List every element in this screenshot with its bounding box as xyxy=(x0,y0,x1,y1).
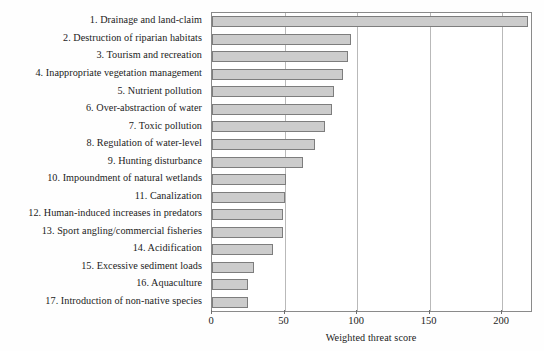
bar-row xyxy=(212,83,531,101)
category-label-row: 17. Introduction of non-native species xyxy=(0,293,207,311)
bar xyxy=(212,209,283,220)
category-label-row: 12. Human-induced increases in predators xyxy=(0,205,207,223)
bar-row xyxy=(212,66,531,84)
x-tick-label: 50 xyxy=(278,315,289,326)
category-label: 9. Hunting disturbance xyxy=(108,156,202,167)
category-label: 6. Over-abstraction of water xyxy=(86,103,202,114)
bar-row xyxy=(212,101,531,119)
category-label: 11. Canalization xyxy=(135,191,202,202)
category-label-row: 16. Aquaculture xyxy=(0,275,207,293)
bar-chart-figure: 1. Drainage and land-claim2. Destruction… xyxy=(0,0,544,351)
category-label-row: 2. Destruction of riparian habitats xyxy=(0,30,207,48)
category-label-row: 8. Regulation of water-level xyxy=(0,135,207,153)
category-label-row: 4. Inappropriate vegetation management xyxy=(0,65,207,83)
category-label-row: 3. Tourism and recreation xyxy=(0,47,207,65)
x-tick-mark xyxy=(356,310,357,314)
bar-row xyxy=(212,153,531,171)
category-label: 4. Inappropriate vegetation management xyxy=(35,68,202,79)
category-label: 13. Sport angling/commercial fisheries xyxy=(42,226,202,237)
x-tick-label: 100 xyxy=(348,315,364,326)
bar-row xyxy=(212,118,531,136)
x-tick-label: 150 xyxy=(421,315,437,326)
x-axis: Weighted threat score 050100150200 xyxy=(211,310,531,351)
category-label-row: 14. Acidification xyxy=(0,240,207,258)
bar xyxy=(212,227,283,238)
bar-series xyxy=(212,13,531,311)
x-tick-label: 0 xyxy=(208,315,213,326)
category-label: 14. Acidification xyxy=(133,243,202,254)
bar xyxy=(212,157,303,168)
category-label: 10. Impoundment of natural wetlands xyxy=(47,173,202,184)
bar-row xyxy=(212,241,531,259)
category-label-row: 13. Sport angling/commercial fisheries xyxy=(0,222,207,240)
x-tick-mark xyxy=(501,310,502,314)
plot-area xyxy=(211,12,532,312)
bar-row xyxy=(212,13,531,31)
bar-row xyxy=(212,188,531,206)
category-label: 16. Aquaculture xyxy=(136,278,202,289)
category-label: 15. Excessive sediment loads xyxy=(81,261,202,272)
category-label: 7. Toxic pollution xyxy=(129,121,202,132)
bar xyxy=(212,86,334,97)
category-label-row: 9. Hunting disturbance xyxy=(0,152,207,170)
bar xyxy=(212,244,273,255)
bar-row xyxy=(212,223,531,241)
x-axis-title: Weighted threat score xyxy=(211,332,531,343)
bar-row xyxy=(212,136,531,154)
category-label-row: 11. Canalization xyxy=(0,187,207,205)
category-label: 2. Destruction of riparian habitats xyxy=(63,33,202,44)
bar xyxy=(212,69,343,80)
bar xyxy=(212,34,351,45)
category-label-row: 5. Nutrient pollution xyxy=(0,82,207,100)
category-label-row: 10. Impoundment of natural wetlands xyxy=(0,170,207,188)
bar xyxy=(212,51,348,62)
bar xyxy=(212,279,248,290)
category-label: 12. Human-induced increases in predators xyxy=(28,208,202,219)
category-label-row: 1. Drainage and land-claim xyxy=(0,12,207,30)
bar-row xyxy=(212,294,531,312)
bar xyxy=(212,121,325,132)
bar-row xyxy=(212,276,531,294)
bar-row xyxy=(212,48,531,66)
x-tick-label: 200 xyxy=(493,315,509,326)
category-label: 5. Nutrient pollution xyxy=(117,86,202,97)
bar-row xyxy=(212,258,531,276)
bar xyxy=(212,297,248,308)
bar-row xyxy=(212,31,531,49)
category-label: 1. Drainage and land-claim xyxy=(90,15,202,26)
category-label: 8. Regulation of water-level xyxy=(87,138,202,149)
bar xyxy=(212,16,528,27)
category-label-row: 6. Over-abstraction of water xyxy=(0,100,207,118)
bar xyxy=(212,174,286,185)
category-label-row: 15. Excessive sediment loads xyxy=(0,257,207,275)
category-label: 17. Introduction of non-native species xyxy=(45,296,202,307)
category-label-row: 7. Toxic pollution xyxy=(0,117,207,135)
category-label-column: 1. Drainage and land-claim2. Destruction… xyxy=(0,12,207,310)
bar-row xyxy=(212,206,531,224)
bar xyxy=(212,262,254,273)
category-label: 3. Tourism and recreation xyxy=(96,50,202,61)
x-tick-mark xyxy=(211,310,212,314)
x-tick-mark xyxy=(284,310,285,314)
bar xyxy=(212,192,285,203)
bar xyxy=(212,104,332,115)
x-tick-mark xyxy=(429,310,430,314)
bar xyxy=(212,139,315,150)
bar-row xyxy=(212,171,531,189)
